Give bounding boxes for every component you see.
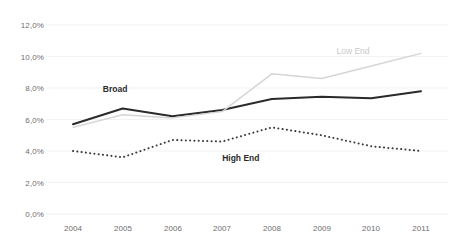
y-tick-label-4: 4,0%	[4, 147, 44, 156]
x-tick-label-2010: 2010	[351, 224, 391, 233]
series-label-high-end: High End	[222, 153, 259, 163]
y-tick-label-6: 6,0%	[4, 116, 44, 125]
x-tick-label-2004: 2004	[53, 224, 93, 233]
plot-area	[0, 0, 451, 245]
y-tick-label-0: 0,0%	[4, 210, 44, 219]
x-tick-label-2009: 2009	[302, 224, 342, 233]
x-tick-label-2008: 2008	[252, 224, 292, 233]
y-tick-label-10: 10,0%	[4, 53, 44, 62]
y-tick-label-8: 8,0%	[4, 84, 44, 93]
x-tick-label-2011: 2011	[401, 224, 441, 233]
series-lines	[73, 53, 421, 157]
series-label-broad: Broad	[103, 84, 128, 94]
series-label-low-end: Low End	[336, 46, 369, 56]
y-tick-label-2: 2,0%	[4, 179, 44, 188]
line-chart: 12,0% 10,0% 8,0% 6,0% 4,0% 2,0% 0,0% 200…	[0, 0, 451, 245]
x-tick-label-2005: 2005	[103, 224, 143, 233]
x-tick-label-2007: 2007	[202, 224, 242, 233]
y-tick-label-12: 12,0%	[4, 21, 44, 30]
x-tick-label-2006: 2006	[153, 224, 193, 233]
